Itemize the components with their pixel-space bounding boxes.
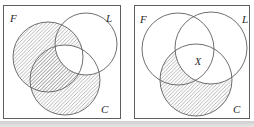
set-label-c: C <box>101 103 109 115</box>
set-label-l: L <box>105 12 112 24</box>
region-label-x: X <box>194 56 202 67</box>
figure-venn-diagrams: F L C F L C X <box>0 0 254 127</box>
venn-panel-left: F L C <box>3 5 121 119</box>
set-label-f: F <box>9 12 17 24</box>
set-label-f: F <box>139 13 147 25</box>
set-label-c: C <box>233 103 241 115</box>
page-edge-shadow <box>0 121 254 127</box>
venn-panel-right: F L C X <box>134 5 250 119</box>
set-label-l: L <box>241 13 248 25</box>
